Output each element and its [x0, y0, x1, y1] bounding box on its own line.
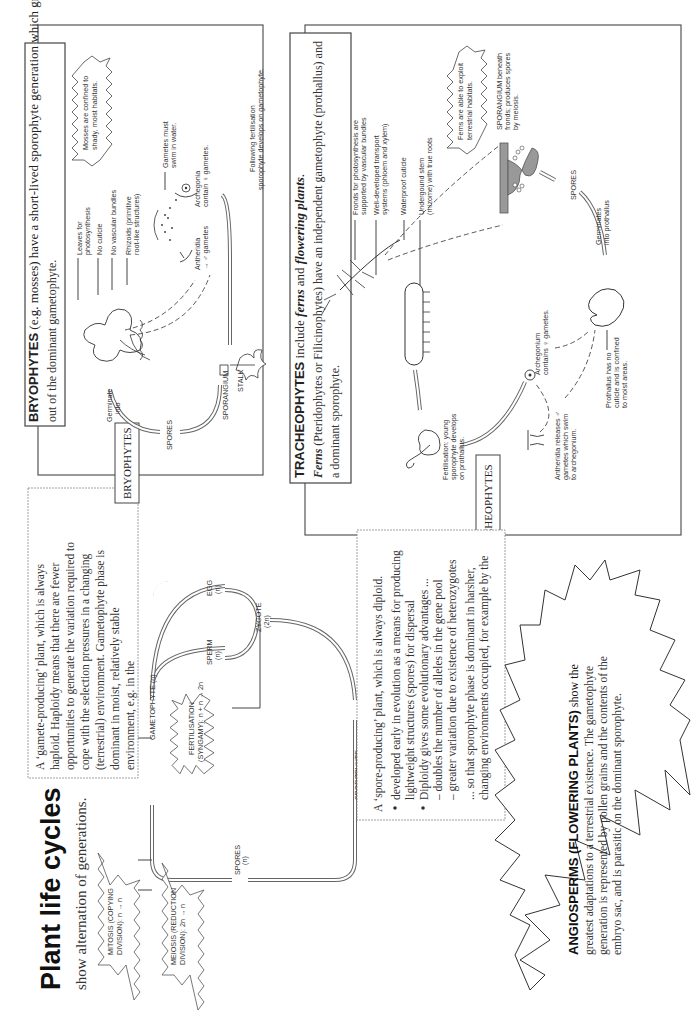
angiosperms-heading: ANGIOSPERMS (FLOWERING PLANTS) show the: [566, 664, 581, 955]
sporophyte-note-line: developed early in evolution as a means …: [390, 550, 403, 800]
sporophyte-note: A ‘spore-producing’ plant, which is alwa…: [372, 550, 491, 812]
fern-label: on prothallus.: [457, 437, 466, 480]
page-subtitle: show alternation of generations.: [73, 798, 89, 990]
sporophyte-note-line: ... so that sporophyte phase is dominant…: [464, 567, 477, 800]
bryophytes-tag: BRYOPHYTES: [121, 427, 133, 499]
moss-spores-label: SPORES: [165, 420, 174, 450]
sporophyte-note-intro: A ‘spore-producing’ plant, which is alwa…: [372, 576, 385, 812]
gametophyte-note-line: dominant in moist, relatively stable: [109, 607, 122, 770]
sporophyte-note-line: Diploidy gives some evolutionary advanta…: [418, 578, 431, 800]
meiosis-callout: MEIOSIS (REDUCTION DIVISION): 2n → n: [162, 863, 204, 1010]
mitosis-formula: DIVISION): n → n: [115, 898, 124, 955]
sporophyte-note-line: – doubles the number of alleles in the g…: [432, 579, 445, 801]
moss-callout-line: Mosses are confined to: [81, 76, 90, 150]
fern-label: contains ♀ gametes.: [541, 309, 550, 375]
mitosis-callout: MITOSIS (COPYING DIVISION): n → n: [98, 853, 140, 1000]
sperm-n-label: (n): [213, 651, 222, 660]
moss-label: sporophyte develops on gametophyte.: [256, 68, 265, 190]
page-title-group: Plant life cycles show alternation of ge…: [36, 787, 89, 990]
bullet-icon: [421, 806, 425, 810]
sporophyte-note-line: changing environments occupied, for exam…: [478, 556, 491, 800]
bryophytes-panel: BRYOPHYTES (e.g. mosses) have a short-li…: [25, 0, 266, 503]
sporophyte-note-line: lightweight structures (spores) for disp…: [404, 600, 417, 800]
tracheophytes-heading: TRACHEOPHYTES include ferns and flowerin…: [292, 174, 307, 478]
angiosperms-line: generation is represented by pollen grai…: [597, 656, 610, 955]
spores-n-label: (n): [240, 856, 249, 865]
page-canvas: Plant life cycles show alternation of ge…: [0, 0, 699, 1013]
fern-label: supported by vascular bundles: [359, 117, 368, 215]
fern-callout-line: terrestrial habitats.: [465, 81, 474, 140]
angiosperms-line: embryo sac, and is parasitic on the domi…: [611, 693, 624, 955]
moss-label: No vascular bundles: [109, 189, 118, 255]
moss-label: root-like structures): [132, 193, 141, 255]
tracheophytes-line2: Ferns (Pteridophytes or Filicinophytes) …: [311, 41, 325, 479]
fern-label: systems (phloem and xylem): [380, 124, 389, 215]
sporophyte-note-line: – greater variation due to existence of …: [446, 559, 459, 801]
fern-label: to archegonium.: [569, 428, 578, 480]
moss-germinate-label: into: [113, 402, 122, 414]
moss-label: contain ♀ gametes.: [201, 145, 210, 207]
fern-spores-label: SPORES: [569, 170, 578, 200]
gametophyte-note-line: environment, e.g. in the: [124, 661, 137, 770]
fern-label: to moist areas.: [620, 361, 629, 408]
moss-label: photosynthesis: [83, 207, 92, 255]
gametophyte-note-line: haploid. Haploidy means that there are f…: [49, 563, 62, 770]
moss-sporangium-label: SPORANGIUM: [221, 371, 230, 420]
fern-germinates-label: into prothallus: [602, 200, 611, 245]
fern-label: by meiosis.: [511, 94, 520, 130]
fertilisation-label: FERTILISATION: [187, 702, 196, 755]
fern-callout-line: Ferns are able to exploit: [456, 63, 465, 140]
meiosis-formula: DIVISION): 2n → n: [178, 904, 187, 965]
fern-label: Waterproof cuticle: [399, 157, 408, 215]
moss-callout-line: shady, moist habitats.: [90, 81, 99, 150]
angiosperms-callout: ANGIOSPERMS (FLOWERING PLANTS) show the …: [495, 560, 690, 990]
fern-label: (rhizome) with true roots: [425, 137, 434, 215]
bryophytes-heading: BRYOPHYTES (e.g. mosses) have a short-li…: [26, 0, 41, 422]
syngamy-label: (SYNGAMY): n + n → 2n: [196, 682, 205, 762]
bryophytes-heading-line2: out of the dominant gametophyte.: [45, 260, 59, 422]
bullet-icon: [393, 806, 397, 810]
angiosperms-line: greatest adaptations to a terrestrial ex…: [583, 666, 596, 955]
gametophyte-note-line: opportunities to generate the variation …: [64, 542, 77, 770]
tracheophytes-line3: a dominant sporophyte.: [328, 365, 342, 478]
life-cycle-diagram: GAMETOPHYTE (n) SPERM (n) EGG (n) ZYGOTE…: [138, 580, 370, 890]
mitosis-label: MITOSIS (COPYING: [106, 888, 115, 955]
egg-n-label: (n): [213, 585, 222, 594]
moss-label: → ♂ gametes: [201, 225, 210, 270]
meiosis-label: MEIOSIS (REDUCTION: [169, 888, 178, 965]
tracheophytes-panel: TRACHEOPHYTES include ferns and flowerin…: [290, 25, 681, 563]
gametophyte-note-line: (terrestrial) environment. Gametophyte p…: [94, 549, 107, 770]
gametophyte-label: GAMETOPHYTE (n): [148, 674, 157, 740]
moss-stalk-label: STALK: [236, 370, 245, 392]
page-title: Plant life cycles: [36, 787, 66, 990]
moss-label: swim in water.: [169, 123, 178, 168]
gametophyte-note-line: cope with the selection pressures in a c…: [79, 554, 92, 770]
moss-label: No cuticle: [95, 223, 104, 255]
gametophyte-note-line: A ‘gamete-producing’ plant, which is alw…: [34, 563, 47, 770]
zygote-2n-label: (2n): [262, 615, 271, 628]
